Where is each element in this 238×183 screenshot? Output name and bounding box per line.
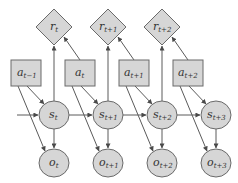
node-subscript: t+3 xyxy=(214,162,228,170)
edge-a_t+2-r_t+2 xyxy=(172,37,188,60)
action-node-a_t: at xyxy=(65,60,95,86)
reward-node-r_t+2: rt+2 xyxy=(144,9,180,45)
observation-node-o_t: ot xyxy=(39,149,69,177)
node-subscript: t+3 xyxy=(213,114,227,122)
node-subscript: t+1 xyxy=(131,72,144,80)
edge-a_t-r_t xyxy=(64,37,80,60)
state-node-s_t+3: st+3 xyxy=(201,101,231,129)
node-subscript: t xyxy=(82,72,85,80)
node-subscript: t+2 xyxy=(159,114,173,122)
edge-a_t+1-s_t+2 xyxy=(135,86,152,104)
edge-a_t-1-s_t xyxy=(27,86,44,104)
action-node-a_t-1: at−1 xyxy=(11,60,41,86)
edge-a_t+1-r_t+1 xyxy=(118,37,134,60)
observation-nodes: ot ot+1 ot+2 ot+3 xyxy=(39,149,231,177)
node-subscript: t xyxy=(56,162,59,170)
edge-a_t+2-s_t+3 xyxy=(189,86,206,104)
node-subscript: t−1 xyxy=(24,72,37,80)
node-subscript: t+2 xyxy=(160,162,174,170)
node-subscript: t+1 xyxy=(106,162,119,170)
observation-node-o_t+1: ot+1 xyxy=(93,149,123,177)
node-subscript: t+2 xyxy=(158,26,172,34)
reward-nodes: rt rt+1 rt+2 xyxy=(36,9,180,45)
action-node-a_t+1: at+1 xyxy=(119,60,149,86)
observation-node-o_t+2: ot+2 xyxy=(147,149,177,177)
observation-node-o_t+3: ot+3 xyxy=(201,149,231,177)
node-subscript: t+1 xyxy=(104,26,117,34)
action-node-a_t+2: at+2 xyxy=(173,60,203,86)
action-nodes: at−1 at at+1 at+2 xyxy=(11,60,203,86)
node-subscript: t xyxy=(55,26,58,34)
edge-a_t-s_t+1 xyxy=(81,86,98,104)
node-subscript: t xyxy=(55,114,58,122)
node-subscript: t+1 xyxy=(105,114,118,122)
node-subscript: t+2 xyxy=(185,72,199,80)
state-node-s_t+1: st+1 xyxy=(93,101,123,129)
state-node-s_t: st xyxy=(39,101,69,129)
reward-node-r_t+1: rt+1 xyxy=(90,9,126,45)
edges xyxy=(17,37,216,151)
reward-node-r_t: rt xyxy=(36,9,72,45)
pomdp-diagram: rt rt+1 rt+2 at−1 at at+1 at+2 xyxy=(0,0,238,183)
state-node-s_t+2: st+2 xyxy=(147,101,177,129)
